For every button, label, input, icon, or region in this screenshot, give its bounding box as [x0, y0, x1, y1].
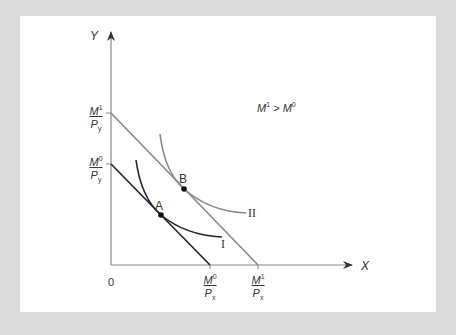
- curve-i-label: I: [221, 238, 225, 250]
- condition-label: M1 > M0: [257, 101, 296, 114]
- diagram-stage: Y X 0 M1 Py M0 Py M0 Px M1 Px A B I II M…: [0, 0, 456, 335]
- point-b-label: B: [179, 173, 187, 185]
- x-axis-label: X: [361, 260, 369, 272]
- origin-label: 0: [108, 277, 114, 288]
- point-b: [181, 186, 187, 192]
- y-tick-label-m1-py: M1 Py: [88, 104, 104, 132]
- curve-ii-label: II: [248, 207, 256, 219]
- point-a: [158, 212, 164, 218]
- budget-constraint-diagram: [0, 0, 456, 335]
- x-tick-label-m1-px: M1 Px: [250, 273, 266, 301]
- y-tick-label-m0-py: M0 Py: [88, 155, 104, 183]
- x-tick-label-m0-px: M0 Px: [202, 273, 218, 301]
- indifference-curve-ii: [160, 134, 246, 213]
- point-a-label: A: [155, 200, 163, 212]
- y-axis-label: Y: [90, 30, 98, 42]
